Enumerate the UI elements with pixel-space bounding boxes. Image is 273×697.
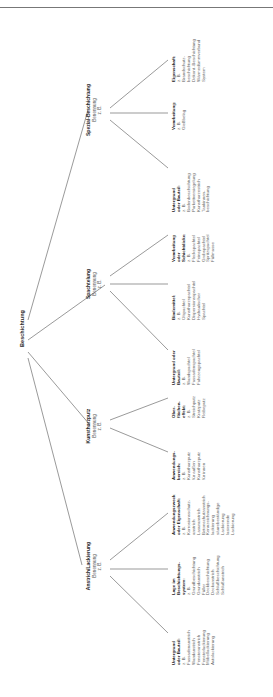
- leaf-item: Schlußanstrich: [221, 555, 226, 595]
- category-spezial-beschichtung: Spezial-Beschichtung Benennung z. B.: [86, 80, 102, 140]
- eg-label: z. B.: [97, 404, 102, 448]
- tree-connectors: [0, 0, 273, 697]
- leaf-item: Lackierung: [231, 495, 236, 536]
- leaf-item: Autolackierung: [211, 630, 216, 665]
- leaf-item: Spachtel: [202, 281, 207, 320]
- leaf-bindemittel: Bindemittel: z. B. Ölspachtel Kunstharzs…: [172, 281, 206, 320]
- category-anstrich-lackierung: Anstrich/Lackierung Benennung z. B.: [86, 538, 102, 594]
- eg-label: z. B.: [97, 538, 102, 594]
- leaf-anwendungsbereich: Anwendungs- bereich: z. B. Kunstharzputz…: [172, 451, 206, 480]
- leaf-eigenschaft: Eigenschaft: z. B. Brandschutz- beschich…: [172, 39, 206, 82]
- leaf-untergrund-bauteil: Untergrund oder Bauteil: z. B. Fassadena…: [172, 630, 216, 665]
- leaf-untergrund-bauteil: Untergrund oder Bauteil: z. B. Bodenbesc…: [172, 173, 211, 212]
- leaf-oberflaecheneffekt: Ober- flächen- effekt: z. B. Streichputz…: [172, 396, 206, 418]
- leaf-item: beschichtung: [206, 173, 211, 212]
- leaf-anwendungszweck-eigenschaft: Anwendungszweck oder Eigenschaft: z. B. …: [172, 495, 236, 536]
- root-node: Beschichtung: [19, 310, 25, 347]
- category-title: Spezial-Beschichtung: [86, 80, 92, 140]
- leaf-item: Gießbelag: [182, 102, 187, 130]
- leaf-item: Füllmasse: [211, 233, 216, 262]
- leaf-verarbeitung: Verarbeitung: z. B. Gießbelag: [172, 102, 187, 130]
- category-spachtelung: Spachtelung Benennung z. B.: [86, 262, 102, 306]
- leaf-untergrund-bauteil: Untergrund oder Bauteil: z. B. Wandspach…: [172, 349, 202, 385]
- category-title: Kunstharzputz: [86, 404, 92, 448]
- leaf-item: Fahrzeugspachtel: [197, 349, 202, 385]
- eg-label: z. B.: [97, 262, 102, 306]
- category-kunstharzputz: Kunstharzputz Benennung z. B.: [86, 404, 102, 448]
- leaf-item: Reibeputz: [202, 396, 207, 418]
- eg-label: z. B.: [97, 80, 102, 140]
- leaf-lage-im-beschichtungssystem: Lage im Beschichtungs- system: z. B. Gru…: [172, 555, 226, 595]
- category-title: Anstrich/Lackierung: [86, 538, 92, 594]
- leaf-item: für innen: [202, 451, 207, 480]
- leaf-verarbeitung-schichtdicke: Verarbeitung oder Schichtdicke: z. B. Fl…: [172, 233, 216, 262]
- leaf-item: System: [202, 39, 207, 82]
- root-label: Beschichtung: [19, 310, 25, 347]
